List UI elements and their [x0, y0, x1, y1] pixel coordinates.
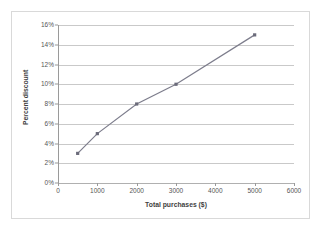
x-tick-label: 4000	[208, 188, 222, 195]
y-tick-label: 0%	[45, 180, 54, 187]
x-tick-label: 0	[56, 188, 60, 195]
y-tick-label: 6%	[45, 121, 54, 128]
chart-figure: Percent discount 0%2%4%6%8%10%12%14%16% …	[11, 11, 310, 219]
y-axis-title: Percent discount	[20, 12, 34, 183]
y-tick-label: 14%	[41, 42, 54, 49]
x-tick-mark	[176, 183, 177, 186]
x-tick-mark	[97, 183, 98, 186]
y-tick-label: 2%	[45, 160, 54, 167]
data-point-marker: 3000, 10%	[174, 83, 177, 86]
x-axis-title: Total purchases ($)	[58, 202, 294, 209]
data-point-marker: 5000, 15%	[253, 33, 256, 36]
data-point-marker: 500, 3%	[76, 152, 79, 155]
data-point-marker: 1000, 5%	[96, 132, 99, 135]
y-tick-label: 8%	[45, 101, 54, 108]
y-tick-label: 12%	[41, 61, 54, 68]
y-tick-label: 4%	[45, 140, 54, 147]
x-tick-label: 5000	[247, 188, 261, 195]
data-point-marker: 2000, 8%	[135, 102, 138, 105]
x-tick-mark	[137, 183, 138, 186]
x-tick-label: 2000	[129, 188, 143, 195]
x-tick-label: 6000	[287, 188, 301, 195]
y-tick-label: 16%	[41, 22, 54, 29]
x-tick-mark	[58, 183, 59, 186]
x-tick-mark	[294, 183, 295, 186]
series-line-path	[78, 35, 255, 154]
x-tick-label: 3000	[169, 188, 183, 195]
x-tick-label: 1000	[90, 188, 104, 195]
x-tick-mark	[255, 183, 256, 186]
series-line-chart: 500, 3%1000, 5%2000, 8%3000, 10%5000, 15…	[58, 25, 294, 183]
plot-area: 0%2%4%6%8%10%12%14%16% 500, 3%1000, 5%20…	[58, 25, 294, 183]
x-tick-mark	[215, 183, 216, 186]
y-axis-title-label: Percent discount	[24, 70, 31, 125]
y-tick-label: 10%	[41, 81, 54, 88]
